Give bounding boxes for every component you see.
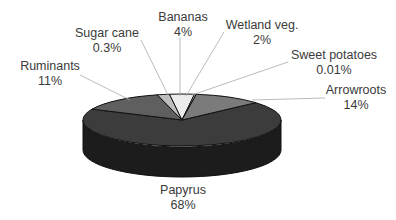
- label-ruminants: Ruminants 11%: [20, 59, 80, 89]
- label-papyrus: Papyrus 68%: [160, 183, 206, 213]
- pie-top: [83, 94, 281, 146]
- label-wetland-veg-name: Wetland veg.: [226, 18, 299, 33]
- label-arrowroots-value: 14%: [326, 98, 386, 113]
- label-bananas: Bananas 4%: [158, 10, 207, 40]
- label-wetland-veg-value: 2%: [226, 33, 299, 48]
- label-sweet-potatoes-name: Sweet potatoes: [291, 48, 377, 63]
- label-sugar-cane-value: 0.3%: [75, 41, 139, 56]
- label-ruminants-value: 11%: [20, 74, 80, 89]
- label-sweet-potatoes-value: 0.01%: [291, 63, 377, 78]
- label-bananas-name: Bananas: [158, 10, 207, 25]
- label-wetland-veg: Wetland veg. 2%: [226, 18, 299, 48]
- label-sweet-potatoes: Sweet potatoes 0.01%: [291, 48, 377, 78]
- label-papyrus-value: 68%: [160, 198, 206, 213]
- label-sugar-cane-name: Sugar cane: [75, 26, 139, 41]
- label-arrowroots: Arrowroots 14%: [326, 83, 386, 113]
- label-bananas-value: 4%: [158, 25, 207, 40]
- label-papyrus-name: Papyrus: [160, 183, 206, 198]
- label-arrowroots-name: Arrowroots: [326, 83, 386, 98]
- label-ruminants-name: Ruminants: [20, 59, 80, 74]
- label-sugar-cane: Sugar cane 0.3%: [75, 26, 139, 56]
